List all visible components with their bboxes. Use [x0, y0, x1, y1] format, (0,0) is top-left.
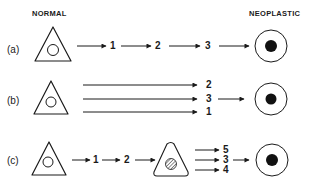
- normal-nucleus-icon: [48, 45, 59, 56]
- diagram-graphics: [0, 0, 318, 185]
- normal-nucleus-icon: [43, 157, 53, 167]
- row-a-step-2: 2: [155, 40, 161, 51]
- neoplastic-nucleus-icon: [265, 40, 277, 52]
- row-b-branch-1: 1: [206, 106, 212, 117]
- row-c-step-2: 2: [124, 154, 130, 165]
- hatched-nucleus-icon: [166, 159, 177, 170]
- neoplastic-nucleus-icon: [266, 94, 277, 105]
- row-b-graphics: [34, 81, 287, 115]
- normal-nucleus-icon: [46, 97, 56, 107]
- row-c-branch-4: 4: [223, 164, 229, 175]
- row-a-step-3: 3: [205, 40, 211, 51]
- row-c-label: (c): [7, 155, 19, 166]
- row-c-step-1: 1: [93, 154, 99, 165]
- row-b-branch-3: 3: [206, 93, 212, 104]
- carcinogenesis-pathway-diagram: NORMAL NEOPLASTIC (a) (b) (c) 1 2 3 2 3 …: [0, 0, 318, 185]
- neoplastic-nucleus-icon: [266, 154, 278, 166]
- row-c-graphics: [32, 142, 288, 176]
- neoplastic-header: NEOPLASTIC: [249, 9, 300, 18]
- row-a-label: (a): [7, 44, 19, 55]
- normal-cell-icon: [32, 142, 66, 175]
- row-a-step-1: 1: [110, 40, 116, 51]
- row-a-graphics: [35, 27, 287, 62]
- normal-header: NORMAL: [32, 9, 67, 18]
- row-b-label: (b): [7, 95, 19, 106]
- row-b-branch-2: 2: [206, 79, 212, 90]
